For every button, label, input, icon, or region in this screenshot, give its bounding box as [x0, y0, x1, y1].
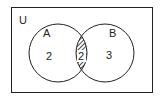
set-a-label: A [43, 27, 51, 39]
set-a-only-count: 2 [46, 50, 52, 62]
set-b-only-count: 3 [106, 49, 112, 61]
intersection-count: 2 [78, 50, 84, 62]
set-b-label: B [109, 27, 116, 39]
venn-diagram: U A B 2 2 3 [0, 0, 160, 100]
universe-label: U [19, 14, 27, 26]
